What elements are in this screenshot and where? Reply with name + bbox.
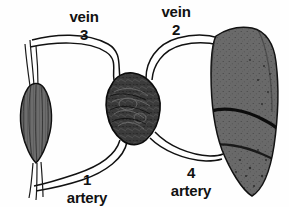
label-vein-2-name: vein — [161, 3, 190, 20]
label-artery-1: 1 artery — [67, 171, 108, 206]
label-artery-4: 4 artery — [171, 164, 212, 199]
label-artery-1-number: 1 — [83, 171, 91, 188]
label-vein-3-number: 3 — [80, 26, 88, 43]
label-vein-2-number: 2 — [172, 21, 180, 38]
vessel-vein-3 — [30, 35, 120, 80]
organ-heart-center — [106, 73, 160, 145]
vessel-vein-2 — [146, 35, 219, 80]
vessel-artery-4 — [150, 132, 223, 161]
vessel-artery-1 — [34, 140, 127, 191]
diagram-svg: vein 3 vein 2 1 artery 4 artery — [0, 0, 289, 207]
label-vein-3-name: vein — [69, 8, 98, 25]
label-vein-2: vein 2 — [161, 3, 190, 38]
label-artery-1-name: artery — [67, 189, 108, 206]
organ-muscle-left — [20, 40, 51, 200]
label-artery-4-number: 4 — [187, 164, 196, 181]
diagram-canvas: vein 3 vein 2 1 artery 4 artery — [0, 0, 289, 207]
organ-lung-right — [206, 27, 282, 198]
label-artery-4-name: artery — [171, 182, 212, 199]
